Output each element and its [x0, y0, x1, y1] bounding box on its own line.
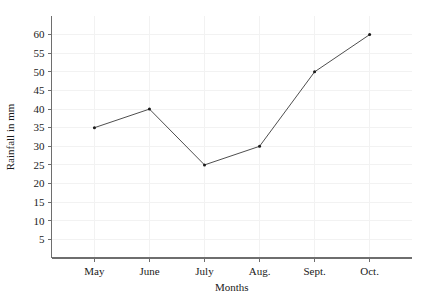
data-point-marker: [93, 126, 96, 129]
y-tick-label: 20: [34, 177, 46, 189]
chart-canvas: 51015202530354045505560 MayJuneJulyAug.S…: [0, 0, 427, 298]
x-axis-title: Months: [215, 281, 249, 293]
y-tick-label: 15: [34, 196, 46, 208]
y-tick-label: 45: [34, 84, 46, 96]
data-point-marker: [258, 145, 261, 148]
data-point-marker: [203, 163, 206, 166]
x-tick-label: July: [195, 265, 214, 277]
y-tick-label: 35: [34, 121, 46, 133]
y-tick-label: 25: [34, 159, 46, 171]
x-tick-label: Oct.: [360, 265, 379, 277]
data-point-marker: [368, 33, 371, 36]
y-tick-label: 10: [34, 215, 46, 227]
x-tick-label: May: [84, 265, 105, 277]
rainfall-line-chart: 51015202530354045505560 MayJuneJulyAug.S…: [0, 0, 427, 298]
y-tick-label: 30: [34, 140, 46, 152]
y-axis-title: Rainfall in mm: [4, 103, 16, 170]
x-tick-label: Sept.: [303, 265, 326, 277]
y-tick-label: 50: [34, 66, 46, 78]
y-tick-label: 5: [39, 233, 45, 245]
y-tick-label: 60: [34, 28, 46, 40]
x-tick-label: Aug.: [249, 265, 271, 277]
y-tick-label: 55: [34, 47, 46, 59]
y-tick-label: 40: [34, 103, 46, 115]
data-point-marker: [148, 108, 151, 111]
data-point-marker: [313, 70, 316, 73]
chart-background: [0, 0, 427, 298]
x-tick-label: June: [139, 265, 159, 277]
